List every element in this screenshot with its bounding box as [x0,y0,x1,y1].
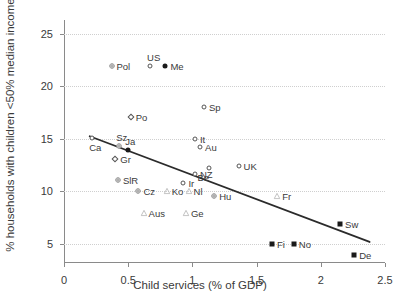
marker-open-triangle [185,188,192,195]
marker-open-triangle [274,192,281,199]
data-point-label: Sp [209,103,221,113]
data-point-label: No [299,240,311,250]
data-point-label: Po [136,113,148,123]
marker-gray-spoke [114,176,121,183]
marker-filled-circle [163,64,168,69]
marker-gray-spoke [135,188,142,195]
data-point-label: US [147,53,160,63]
data-point-label: Pol [117,62,131,72]
data-point-label: Aus [149,209,165,219]
marker-gray-spoke [211,192,218,199]
plot-area: 510152025 00.511.522.5 PolUSMeSpPoCaItAu… [64,20,385,263]
marker-open-circle [192,171,197,176]
marker-open-circle [148,64,153,69]
marker-filled-square [352,252,357,257]
data-point-label: Ko [172,187,184,197]
data-point-label: De [359,251,371,261]
data-point-label: Sw [345,220,358,230]
y-axis-tick-label: 5 [47,238,53,250]
data-point-label: Fr [282,192,291,202]
data-point-label: Au [205,143,217,153]
x-axis-tick: 2.5 [385,263,386,267]
y-axis-tick-label: 15 [41,133,53,145]
marker-open-circle [201,105,206,110]
marker-filled-square [338,222,343,227]
x-axis-tick: 1 [192,263,193,267]
data-point-label: SlR [123,176,138,186]
y-axis-title: % households with children <50% median i… [2,0,18,250]
y-axis-tick-label: 25 [41,28,53,40]
data-point-label: Hu [219,192,231,202]
y-axis-tick-label: 20 [41,80,53,92]
y-axis-tick-label: 10 [41,185,53,197]
x-axis-tick: 1.5 [257,263,258,267]
marker-open-circle [236,164,241,169]
data-point-label: Nl [194,187,203,197]
data-point-label: Me [170,62,183,72]
data-point-label: Fi [277,240,285,250]
x-axis-tick: 2 [321,263,322,267]
marker-open-circle [181,181,186,186]
data-point-label: UK [244,162,257,172]
scatter-chart: % households with children <50% median i… [0,0,400,295]
marker-filled-square [291,242,296,247]
marker-open-circle [90,135,95,140]
marker-open-circle [198,145,203,150]
data-point-label: Cz [143,187,155,197]
marker-gray-spoke [116,143,123,150]
marker-open-triangle [163,188,170,195]
data-point-label: Ja [125,137,135,147]
data-point-label: Gr [120,155,131,165]
x-axis-title: Child services (% of GDP) [0,279,400,291]
x-axis-tick: 0.5 [128,263,129,267]
data-point-label: Ge [191,209,204,219]
x-axis-tick: 0 [64,263,65,267]
marker-open-triangle [182,209,189,216]
marker-open-circle [192,136,197,141]
data-point-label: Ca [89,143,101,153]
marker-filled-square [270,242,275,247]
marker-open-triangle [140,209,147,216]
data-point-label: NZ [200,170,213,180]
marker-filled-circle [126,148,131,153]
y-axis-title-text: % households with children <50% median i… [4,0,16,252]
marker-gray-spoke [108,63,115,70]
